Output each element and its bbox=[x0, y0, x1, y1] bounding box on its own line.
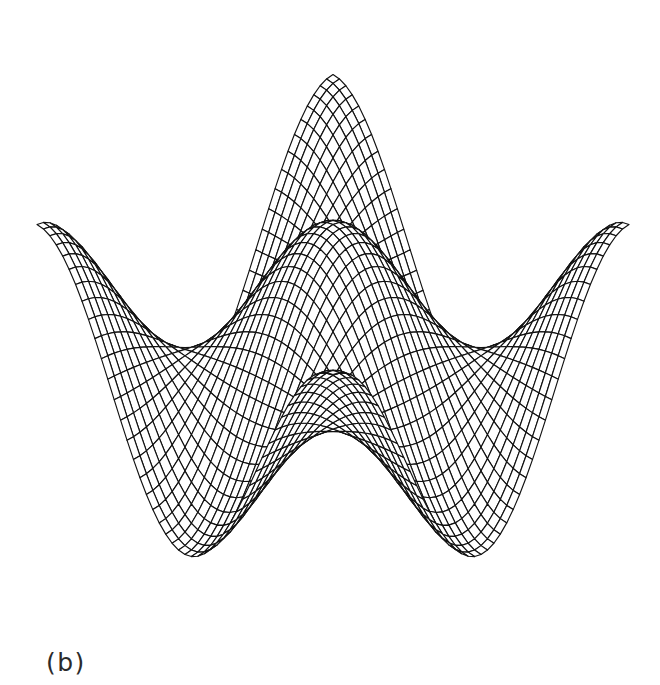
figure-root: (b) bbox=[0, 0, 660, 685]
figure-caption: (b) bbox=[46, 648, 86, 678]
wireframe-surface-plot bbox=[0, 0, 660, 685]
